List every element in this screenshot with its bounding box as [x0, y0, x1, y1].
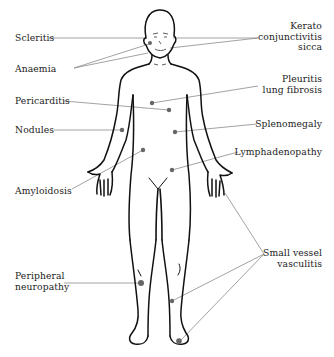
leader-line-kerato-mouth: [170, 38, 258, 48]
label-anaemia: Anaemia: [15, 64, 56, 75]
leader-line-vasculitis-foot: [180, 254, 264, 341]
left-leg-inner: [148, 240, 156, 336]
neck-right: [168, 55, 171, 64]
leader-lines: [49, 38, 264, 341]
marker-anaemia-face: [148, 41, 152, 45]
body-outline: [88, 10, 232, 344]
label-peripheral-neuropathy: Peripheral neuropathy: [15, 271, 69, 292]
label-kerato-conjunctivitis-sicca: Kerato conjunctivitis sicca: [258, 21, 322, 53]
groin-lines: [149, 178, 167, 189]
mouth: [155, 49, 166, 51]
nose: [159, 41, 161, 44]
eyebrows: [153, 33, 168, 34]
marker-splenomegaly: [173, 130, 177, 134]
right-knee-mark: [178, 264, 180, 275]
label-nodules: Nodules: [15, 125, 54, 136]
right-leg-outer: [170, 240, 189, 344]
marker-pleuritis: [150, 101, 154, 105]
marker-vasculitis-foot: [176, 338, 182, 344]
label-amyloidosis: Amyloidosis: [15, 186, 72, 197]
label-lymphadenopathy: Lymphadenopathy: [234, 147, 322, 158]
inner-leg-seam-right: [160, 189, 162, 240]
marker-peripheral-neuropathy: [138, 280, 144, 286]
leader-line-anaemia-face: [74, 44, 149, 68]
marker-lymphadenopathy: [170, 168, 174, 172]
marker-amyloidosis: [141, 148, 145, 152]
right-hand: [208, 172, 232, 197]
left-knee-mark: [138, 270, 141, 276]
body-outline-illustration: [0, 0, 334, 357]
right-leg-inner: [162, 240, 170, 336]
leader-line-pleuritis: [152, 86, 258, 103]
label-pleuritis-lung-fibrosis: Pleuritis lung fibrosis: [263, 74, 322, 95]
neck-left: [149, 55, 152, 64]
marker-pericarditis: [167, 108, 171, 112]
leader-line-splenomegaly: [175, 124, 257, 132]
marker-vasculitis-ankle: [170, 299, 174, 303]
label-pericarditis: Pericarditis: [15, 96, 70, 107]
leader-line-anaemia-neck: [74, 53, 148, 68]
body-diagram: Scleritis Anaemia Pericarditis Nodules A…: [0, 0, 334, 357]
left-hand: [88, 172, 112, 196]
label-splenomegaly: Splenomegaly: [255, 119, 322, 130]
face-features: [153, 33, 168, 65]
left-arm-outer: [88, 64, 149, 172]
label-small-vessel-vasculitis: Small vessel vasculitis: [263, 248, 322, 269]
leader-line-vasculitis-hand: [225, 193, 264, 254]
right-arm-inner: [187, 95, 208, 172]
collarbone: [154, 64, 166, 65]
left-leg-outer: [130, 240, 148, 344]
inner-leg-seam: [156, 189, 158, 240]
marker-nodules: [120, 128, 124, 132]
label-scleritis: Scleritis: [15, 33, 54, 44]
